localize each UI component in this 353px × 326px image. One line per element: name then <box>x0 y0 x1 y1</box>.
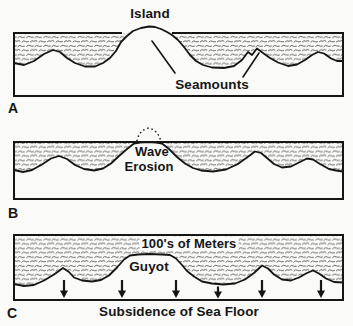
panel-b-letter: B <box>8 206 18 220</box>
subsidence-label: Subsidence of Sea Floor <box>99 305 259 319</box>
panel-c-letter: C <box>7 306 17 320</box>
island-label: Island <box>130 7 170 21</box>
wave-erosion-label-line1: Wave <box>135 145 169 158</box>
guyot-formation-diagram: Island Seamounts A Wave Erosion B 100's … <box>0 0 353 326</box>
seamounts-label: Seamounts <box>175 78 249 92</box>
wave-erosion-label-line2: Erosion <box>124 160 173 173</box>
depth-label: 100's of Meters <box>140 237 239 250</box>
former-island-dotted-outline <box>137 128 161 141</box>
diagram-canvas <box>0 0 353 326</box>
panel-b-diagram <box>14 128 343 199</box>
guyot-label: Guyot <box>129 260 169 274</box>
panel-a-letter: A <box>8 101 18 115</box>
